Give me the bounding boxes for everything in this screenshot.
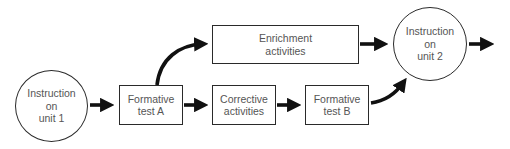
node-formative-test-a: Formative test A	[119, 85, 183, 125]
node-formative-test-b: Formative test B	[305, 85, 369, 125]
node-instruction-unit-1: Instruction on unit 1	[15, 70, 88, 142]
arrow-formative-a-to-enrichment	[157, 44, 202, 85]
node-instruction-unit-2: Instruction on unit 2	[393, 7, 467, 81]
mastery-learning-flowchart: Instruction on unit 1 Formative test A E…	[0, 0, 510, 149]
node-corrective-activities: Corrective activities	[212, 85, 276, 125]
node-enrichment-activities: Enrichment activities	[212, 25, 359, 64]
arrow-formative-b-to-unit2	[371, 83, 403, 103]
